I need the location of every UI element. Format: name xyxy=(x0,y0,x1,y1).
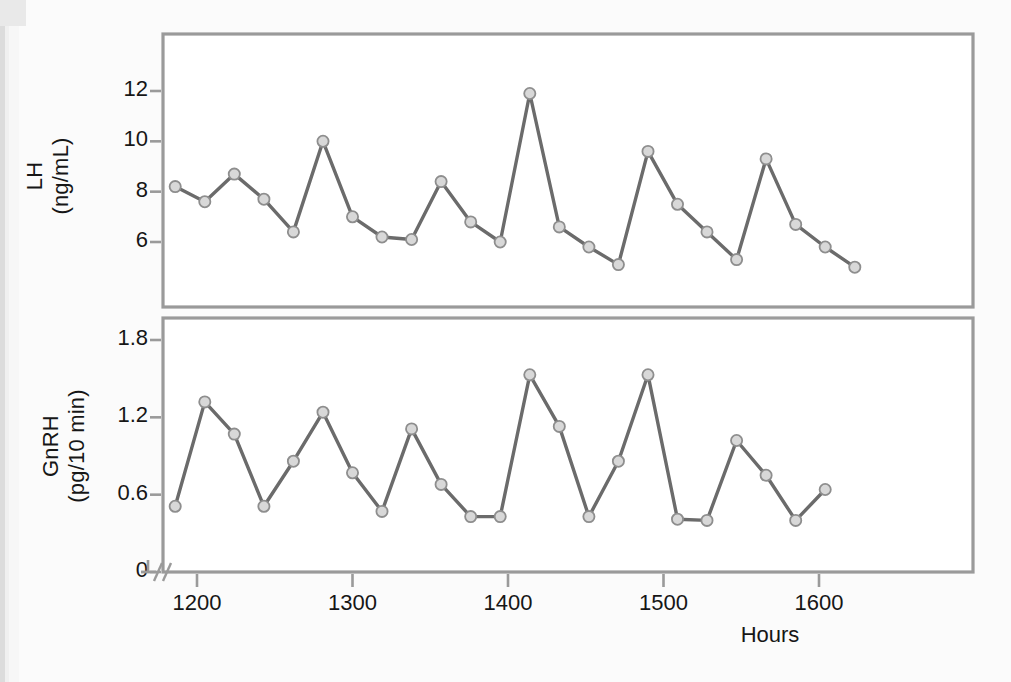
gnrh-marker xyxy=(583,511,594,522)
gnrh-marker xyxy=(258,501,269,512)
gnrh-marker xyxy=(436,479,447,490)
gnrh-marker xyxy=(790,515,801,526)
gnrh-marker xyxy=(288,456,299,467)
lh-marker xyxy=(258,194,269,205)
gnrh-marker xyxy=(820,484,831,495)
lh-marker xyxy=(436,176,447,187)
lh-marker xyxy=(170,181,181,192)
gnrh-marker xyxy=(524,369,535,380)
lh-marker xyxy=(317,136,328,147)
lh-marker xyxy=(790,219,801,230)
gnrh-marker xyxy=(701,515,712,526)
lh-marker xyxy=(406,234,417,245)
gnrh-marker xyxy=(347,467,358,478)
lh-marker xyxy=(820,241,831,252)
gnrh-marker xyxy=(170,501,181,512)
chart-canvas xyxy=(0,0,1011,682)
gnrh-marker xyxy=(761,470,772,481)
lh-marker xyxy=(465,216,476,227)
panel-frame-gnrh xyxy=(163,318,973,572)
gnrh-marker xyxy=(199,396,210,407)
gnrh-marker xyxy=(376,506,387,517)
lh-marker xyxy=(642,146,653,157)
gnrh-marker xyxy=(229,429,240,440)
lh-marker xyxy=(199,196,210,207)
gnrh-marker xyxy=(465,511,476,522)
lh-marker xyxy=(376,231,387,242)
lh-marker xyxy=(731,254,742,265)
lh-marker xyxy=(701,226,712,237)
gnrh-marker xyxy=(406,423,417,434)
lh-marker xyxy=(229,169,240,180)
gnrh-marker xyxy=(672,514,683,525)
gnrh-marker xyxy=(731,435,742,446)
lh-marker xyxy=(583,241,594,252)
gnrh-marker xyxy=(554,421,565,432)
lh-marker xyxy=(347,211,358,222)
lh-marker xyxy=(613,259,624,270)
lh-marker xyxy=(761,153,772,164)
gnrh-marker xyxy=(495,511,506,522)
lh-marker xyxy=(288,226,299,237)
gnrh-marker xyxy=(317,407,328,418)
lh-marker xyxy=(554,221,565,232)
gnrh-marker xyxy=(642,369,653,380)
lh-marker xyxy=(524,88,535,99)
gnrh-marker xyxy=(613,456,624,467)
lh-marker xyxy=(495,236,506,247)
lh-marker xyxy=(849,262,860,273)
lh-marker xyxy=(672,199,683,210)
figure-root: LH (ng/mL) GnRH (pg/10 min) Hours 121086… xyxy=(0,0,1011,682)
